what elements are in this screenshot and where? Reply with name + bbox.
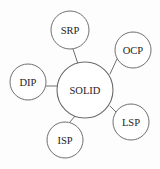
node-label-srp: SRP bbox=[61, 25, 80, 36]
solid-principles-diagram: SRPOCPLSPISPDIP SOLID bbox=[0, 0, 160, 169]
node-isp[interactable]: ISP bbox=[47, 122, 83, 158]
diagram-canvas: SRPOCPLSPISPDIP SOLID bbox=[0, 0, 160, 169]
node-label-isp: ISP bbox=[57, 135, 72, 146]
node-dip[interactable]: DIP bbox=[10, 64, 46, 100]
node-label-dip: DIP bbox=[20, 77, 37, 88]
node-lsp[interactable]: LSP bbox=[113, 104, 149, 140]
hub-label-solid: SOLID bbox=[70, 85, 101, 96]
hub-node-solid[interactable]: SOLID bbox=[57, 62, 113, 118]
edge-solid-srp bbox=[73, 49, 78, 64]
node-label-lsp: LSP bbox=[122, 117, 140, 128]
edge-solid-ocp bbox=[110, 59, 117, 74]
node-label-ocp: OCP bbox=[123, 45, 144, 56]
edge-solid-isp bbox=[70, 116, 75, 122]
edge-solid-lsp bbox=[110, 106, 116, 112]
node-ocp[interactable]: OCP bbox=[115, 32, 151, 68]
node-srp[interactable]: SRP bbox=[51, 11, 89, 49]
